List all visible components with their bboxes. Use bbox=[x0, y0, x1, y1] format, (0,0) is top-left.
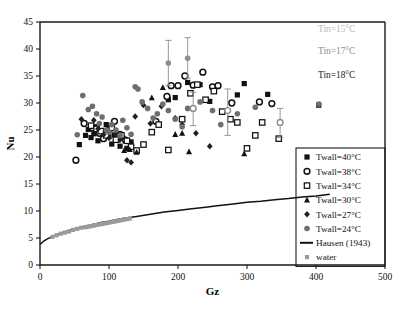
data-point-filled-square bbox=[95, 138, 100, 143]
legend-label: Twall=40°C bbox=[316, 152, 361, 162]
data-point-open-square bbox=[219, 109, 224, 114]
data-point-filled-circle-gray bbox=[135, 86, 141, 92]
data-point-filled-circle-gray bbox=[172, 116, 178, 122]
tin-annotations: Tin=15°CTin=17°CTin=18°C bbox=[318, 24, 355, 80]
data-point-open-circle-gray bbox=[225, 108, 231, 114]
chart-canvas: 0510152025303540450100200300400500GzNuTi… bbox=[0, 0, 408, 319]
data-point-filled-circle-gray bbox=[99, 114, 105, 120]
data-point-open-circle-bold bbox=[175, 83, 181, 89]
data-point-filled-circle-gray bbox=[218, 122, 224, 128]
data-point-filled-triangle bbox=[149, 94, 155, 100]
y-tick-label: 25 bbox=[24, 125, 34, 135]
data-point-open-square bbox=[124, 138, 129, 143]
series-2 bbox=[88, 82, 281, 153]
data-point-open-square bbox=[88, 123, 93, 128]
data-point-open-circle-bold bbox=[215, 83, 221, 89]
data-point-open-square bbox=[259, 120, 264, 125]
data-point-filled-circle-gray bbox=[155, 111, 161, 117]
x-tick-label: 200 bbox=[171, 272, 186, 282]
data-point-open-square bbox=[179, 117, 184, 122]
legend-item-1[interactable]: Twall=38°C bbox=[304, 167, 361, 177]
data-point-filled-circle-gray bbox=[139, 99, 145, 105]
data-point-filled-circle-gray bbox=[97, 121, 103, 127]
y-axis-title: Nu bbox=[4, 136, 16, 150]
data-point-open-circle-bold bbox=[269, 101, 275, 107]
chart-legend: Twall=40°CTwall=38°CTwall=34°CTwall=30°C… bbox=[296, 148, 385, 266]
legend-item-0[interactable]: Twall=40°C bbox=[304, 152, 361, 162]
data-point-open-square bbox=[141, 142, 146, 147]
data-point-filled-square bbox=[242, 81, 247, 86]
data-point-open-square bbox=[276, 136, 281, 141]
data-point-filled-square bbox=[104, 122, 109, 127]
data-point-open-circle-bold bbox=[304, 168, 310, 174]
data-point-filled-circle-gray bbox=[252, 105, 258, 111]
legend-label: Twall=24°C bbox=[316, 224, 361, 234]
legend-label: Twall=34°C bbox=[316, 181, 361, 191]
legend-item-5[interactable]: Twall=24°C bbox=[304, 224, 361, 234]
data-point-open-circle-bold bbox=[200, 69, 206, 75]
data-point-open-square bbox=[149, 129, 154, 134]
data-point-filled-circle-gray bbox=[106, 129, 112, 135]
data-point-filled-triangle bbox=[304, 197, 310, 203]
data-point-filled-circle-gray bbox=[304, 226, 310, 232]
y-tick-label: 5 bbox=[28, 233, 33, 243]
data-point-open-circle-bold bbox=[164, 94, 170, 100]
data-point-open-square bbox=[203, 97, 208, 102]
x-tick-label: 300 bbox=[240, 272, 255, 282]
data-point-small-square-gray bbox=[128, 216, 132, 220]
data-point-open-square bbox=[166, 147, 171, 152]
data-point-small-square-gray bbox=[67, 229, 71, 233]
data-point-filled-circle-gray bbox=[166, 60, 172, 66]
data-point-filled-square bbox=[185, 80, 190, 85]
data-point-filled-circle-gray bbox=[128, 132, 134, 138]
data-point-open-circle-bold bbox=[229, 100, 235, 106]
legend-label: Hausen (1943) bbox=[316, 238, 370, 248]
y-tick-label: 15 bbox=[24, 179, 34, 189]
data-point-filled-circle-gray bbox=[90, 103, 96, 109]
data-point-open-square bbox=[235, 120, 240, 125]
data-point-open-square bbox=[253, 133, 258, 138]
data-point-small-square-gray bbox=[75, 227, 79, 231]
data-point-small-square-gray bbox=[63, 231, 67, 235]
legend-item-4[interactable]: Twall=27°C bbox=[304, 210, 361, 220]
data-point-small-square-gray bbox=[59, 232, 63, 236]
data-point-filled-square bbox=[77, 142, 82, 147]
legend-label: Twall=27°C bbox=[316, 210, 361, 220]
data-point-filled-circle-gray bbox=[120, 117, 126, 123]
annotation-tin-18: Tin=18°C bbox=[318, 70, 355, 80]
data-point-filled-square bbox=[265, 92, 270, 97]
x-axis-title: Gz bbox=[206, 285, 220, 297]
y-tick-label: 40 bbox=[24, 44, 34, 54]
data-point-filled-circle-gray bbox=[74, 132, 80, 138]
series-hausen-curve bbox=[40, 194, 330, 244]
data-point-filled-circle-gray bbox=[160, 101, 166, 107]
data-point-filled-circle-gray bbox=[166, 108, 172, 114]
legend-item-6[interactable]: Hausen (1943) bbox=[300, 238, 370, 248]
legend-label: Twall=30°C bbox=[316, 195, 361, 205]
data-point-open-square bbox=[304, 183, 309, 188]
data-point-open-square bbox=[188, 91, 193, 96]
y-tick-label: 10 bbox=[24, 206, 34, 216]
data-point-filled-circle-gray bbox=[316, 101, 322, 107]
data-point-filled-circle-gray bbox=[113, 127, 119, 133]
data-point-filled-diamond bbox=[193, 130, 199, 136]
data-point-filled-diamond bbox=[207, 143, 213, 149]
data-point-filled-diamond bbox=[304, 211, 310, 217]
data-point-small-square-gray bbox=[71, 228, 75, 232]
data-point-filled-circle-gray bbox=[197, 99, 203, 105]
data-point-filled-circle-gray bbox=[185, 55, 191, 61]
data-point-filled-circle-gray bbox=[94, 111, 100, 117]
data-point-filled-circle-gray bbox=[210, 108, 216, 114]
data-point-filled-triangle bbox=[186, 148, 192, 154]
chart-figure: 0510152025303540450100200300400500GzNuTi… bbox=[0, 0, 408, 319]
data-point-filled-triangle bbox=[160, 84, 166, 90]
legend-item-2[interactable]: Twall=34°C bbox=[304, 181, 361, 191]
x-tick-label: 100 bbox=[102, 272, 117, 282]
y-tick-label: 20 bbox=[24, 152, 34, 162]
data-point-filled-square bbox=[117, 144, 122, 149]
data-point-open-circle-bold bbox=[73, 157, 79, 163]
data-point-filled-circle-gray bbox=[150, 115, 156, 121]
annotation-tin-15: Tin=15°C bbox=[318, 24, 355, 34]
hausen-curve-path bbox=[40, 194, 330, 244]
legend-item-7[interactable]: water bbox=[305, 252, 337, 262]
